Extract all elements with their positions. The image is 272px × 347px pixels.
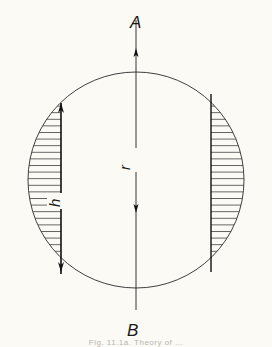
figure-caption: Fig. 11.1a. Theory of ... bbox=[0, 338, 272, 347]
right-hatched-segment bbox=[211, 60, 256, 300]
left-hatched-segment bbox=[20, 60, 61, 300]
circle-diagram: A B r h bbox=[0, 0, 272, 347]
point-label-a: A bbox=[129, 13, 141, 32]
radius-label: r bbox=[116, 164, 133, 170]
height-label: h bbox=[46, 199, 63, 207]
